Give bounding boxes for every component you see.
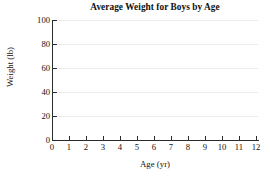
y-tick-label-60: 60 xyxy=(26,64,50,73)
gridline-60 xyxy=(52,68,258,69)
x-tick-mark-8 xyxy=(188,136,189,140)
x-tick-mark-5 xyxy=(137,136,138,140)
x-tick-mark-3 xyxy=(103,136,104,140)
y-axis-label: Weight (lb) xyxy=(5,32,15,102)
chart-title: Average Weight for Boys by Age xyxy=(52,2,258,13)
gridline-80 xyxy=(52,44,258,45)
y-tick-label-40: 40 xyxy=(26,88,50,97)
gridline-20 xyxy=(52,116,258,117)
y-tick-mark-60 xyxy=(53,68,57,69)
x-tick-label-0: 0 xyxy=(44,143,60,152)
y-tick-mark-40 xyxy=(53,92,57,93)
x-tick-mark-10 xyxy=(222,136,223,140)
x-axis-label: Age (yr) xyxy=(52,159,258,169)
x-tick-label-12: 12 xyxy=(248,143,264,152)
x-tick-mark-11 xyxy=(239,136,240,140)
y-axis-spine xyxy=(52,20,53,141)
y-tick-label-80: 80 xyxy=(26,40,50,49)
x-tick-mark-12 xyxy=(256,136,257,140)
y-tick-mark-80 xyxy=(53,44,57,45)
x-tick-label-1: 1 xyxy=(61,143,77,152)
gridline-40 xyxy=(52,92,258,93)
x-tick-label-10: 10 xyxy=(214,143,230,152)
x-tick-mark-7 xyxy=(171,136,172,140)
x-tick-label-5: 5 xyxy=(129,143,145,152)
y-tick-mark-20 xyxy=(53,116,57,117)
gridline-100 xyxy=(52,20,258,21)
x-tick-label-6: 6 xyxy=(146,143,162,152)
x-tick-label-8: 8 xyxy=(180,143,196,152)
x-tick-mark-4 xyxy=(120,136,121,140)
x-tick-label-9: 9 xyxy=(197,143,213,152)
y-tick-label-20: 20 xyxy=(26,112,50,121)
chart-figure: Average Weight for Boys by Age 100 80 60… xyxy=(0,0,270,181)
plot-area xyxy=(52,20,258,140)
x-tick-mark-9 xyxy=(205,136,206,140)
y-tick-label-100: 100 xyxy=(26,16,50,25)
x-tick-label-7: 7 xyxy=(163,143,179,152)
y-tick-mark-0 xyxy=(53,140,57,141)
x-tick-label-4: 4 xyxy=(112,143,128,152)
x-tick-mark-1 xyxy=(69,136,70,140)
x-tick-label-11: 11 xyxy=(231,143,247,152)
x-tick-mark-2 xyxy=(86,136,87,140)
x-tick-label-3: 3 xyxy=(95,143,111,152)
x-tick-label-2: 2 xyxy=(78,143,94,152)
y-tick-mark-100 xyxy=(53,20,57,21)
x-axis-spine xyxy=(52,140,259,141)
x-tick-mark-6 xyxy=(154,136,155,140)
